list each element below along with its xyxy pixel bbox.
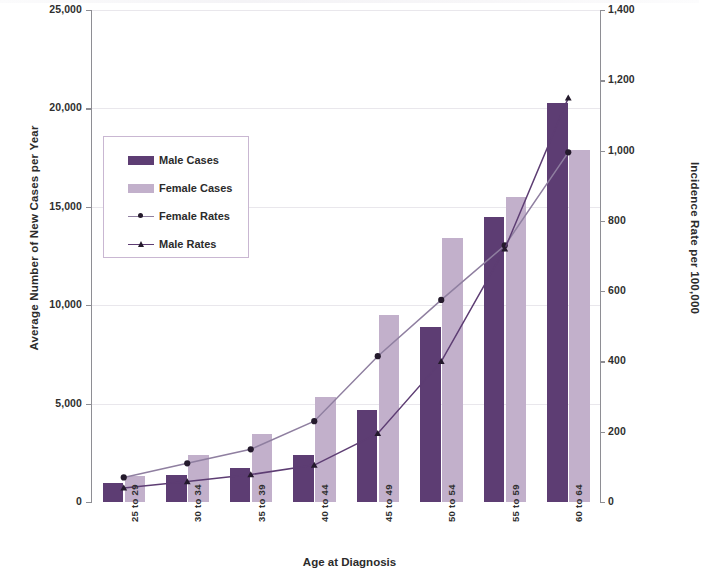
y-axis-right-line [600,10,601,503]
y-tick-label-left: 5,000 [12,397,82,409]
y-tick-label-right: 1,000 [608,144,678,156]
x-category-label: 60 to 64 [573,484,584,522]
x-category-label: 50 to 54 [446,484,457,522]
legend-label: Female Cases [159,182,232,194]
y-tick-label-left: 10,000 [12,298,82,310]
y-tick-label-left: 0 [12,495,82,507]
y-tick-left [86,404,91,405]
rate-marker [121,474,127,480]
rate-marker [311,418,317,424]
rate-marker [438,358,445,364]
y-tick-right [600,502,605,503]
legend-item: Male Cases [104,146,248,174]
legend-swatch-icon [128,156,154,165]
y-tick-label-right: 1,400 [608,3,678,15]
y-tick-left [86,10,91,11]
y-tick-label-right: 1,200 [608,73,678,85]
x-category-label: 35 to 39 [256,484,267,522]
rate-marker [184,460,190,466]
y-tick-label-right: 600 [608,284,678,296]
y-tick-right [600,151,605,152]
x-category-label: 25 to 29 [129,484,140,522]
y-tick-right [600,80,605,81]
y-tick-left [86,108,91,109]
y-tick-label-right: 400 [608,354,678,366]
y-axis-left-title: Average Number of New Cases per Year [28,118,40,358]
legend-item: Male Rates [104,230,248,258]
legend-line-icon [128,211,154,221]
rate-marker [248,446,254,452]
cropped-title-strip [0,0,699,3]
y-tick-label-left: 15,000 [12,200,82,212]
y-tick-label-right: 200 [608,425,678,437]
y-tick-left [86,502,91,503]
chart-legend: Male CasesFemale CasesFemale RatesMale R… [103,136,249,258]
legend-item: Female Rates [104,202,248,230]
y-tick-left [86,207,91,208]
legend-swatch-icon [128,184,154,193]
y-tick-right [600,10,605,11]
y-tick-label-right: 0 [608,495,678,507]
legend-label: Male Rates [159,238,216,250]
legend-label: Female Rates [159,210,230,222]
y-tick-label-left: 20,000 [12,101,82,113]
rate-marker [438,297,444,303]
y-tick-right [600,361,605,362]
x-category-label: 45 to 49 [383,484,394,522]
rate-marker [375,353,381,359]
triangle-marker-icon [138,241,144,247]
x-axis-title: Age at Diagnosis [0,556,699,568]
y-tick-right [600,432,605,433]
x-category-label: 55 to 59 [510,484,521,522]
y-tick-left [86,305,91,306]
y-axis-right-title: Incidence Rate per 100,000 [689,118,701,358]
circle-marker-icon [138,213,143,218]
y-tick-right [600,221,605,222]
legend-item: Female Cases [104,174,248,202]
x-category-label: 40 to 44 [319,484,330,522]
legend-label: Male Cases [159,154,219,166]
rate-marker [565,149,571,155]
x-category-label: 30 to 34 [192,484,203,522]
y-tick-label-left: 25,000 [12,3,82,15]
y-tick-right [600,291,605,292]
legend-line-icon [128,239,154,249]
rate-marker [565,94,572,100]
y-tick-label-right: 800 [608,214,678,226]
